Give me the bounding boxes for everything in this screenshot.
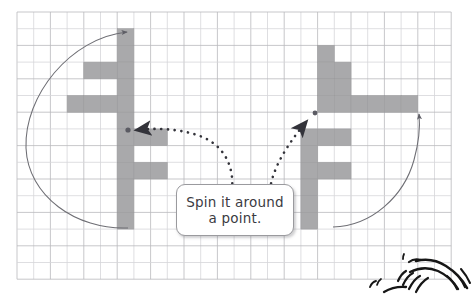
right-upright-f-cell (318, 162, 335, 179)
callout-line-2: a point. (209, 210, 262, 226)
right-rotated-f-cell (334, 96, 351, 113)
callout-box: Spin it around a point. (176, 184, 294, 236)
left-rotated-f-cell (117, 96, 134, 113)
left-upright-f-cell (117, 146, 134, 163)
left-upright-f-cell (151, 129, 168, 146)
right-upright-f-cell (318, 129, 335, 146)
left-rotated-f-cell (101, 96, 118, 113)
left-rotated-f-cell (101, 62, 118, 79)
left-upright-f-cell (151, 162, 168, 179)
graph-paper-grid (17, 12, 451, 279)
right-rotated-f-cell (401, 96, 418, 113)
figure-canvas: Spin it around a point. (0, 0, 471, 295)
right-pivot-dot (313, 111, 318, 116)
right-rotated-f-cell (318, 45, 335, 62)
right-upright-f-cell (301, 129, 318, 146)
right-rotated-f-cell (334, 79, 351, 96)
graphics-layer (0, 0, 471, 295)
right-upright-f-cell (301, 212, 318, 229)
left-rotated-f-cell (84, 62, 101, 79)
callout-line-1: Spin it around (186, 194, 283, 210)
left-rotated-f-cell (67, 96, 84, 113)
right-upright-f-cell (301, 146, 318, 163)
left-upright-f-cell (117, 162, 134, 179)
left-rotated-f-cell (117, 45, 134, 62)
left-rotated-f-cell (117, 79, 134, 96)
right-upright-f-cell (301, 196, 318, 213)
right-rotated-f-cell (318, 96, 335, 113)
left-upright-f-cell (117, 196, 134, 213)
right-rotated-f-cell (368, 96, 385, 113)
left-rotated-f-cell (117, 29, 134, 46)
right-upright-f-cell (301, 162, 318, 179)
left-upright-f-cell (117, 179, 134, 196)
left-pivot-dot (125, 127, 130, 132)
right-rotated-f-cell (334, 62, 351, 79)
left-upright-f-cell (134, 162, 151, 179)
left-upright-f-cell (134, 129, 151, 146)
right-rotated-f-cell (318, 79, 335, 96)
left-rotated-f-cell (84, 96, 101, 113)
left-upright-f-cell (117, 212, 134, 229)
right-rotated-f-cell (318, 62, 335, 79)
left-rotated-f-cell (117, 62, 134, 79)
right-upright-f-cell (334, 129, 351, 146)
right-rotated-f-cell (384, 96, 401, 113)
right-upright-f-cell (334, 162, 351, 179)
left-upright-f-cell (117, 129, 134, 146)
right-upright-f-cell (301, 179, 318, 196)
right-rotated-f-cell (351, 96, 368, 113)
left-rotated-f-cell (117, 112, 134, 129)
